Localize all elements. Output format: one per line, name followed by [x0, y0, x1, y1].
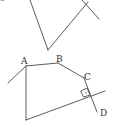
segment-bc — [58, 63, 84, 78]
label-c: C — [84, 72, 91, 82]
top-left-ray — [30, 0, 48, 50]
top-crossing-line — [82, 0, 99, 19]
segment-ab — [26, 63, 58, 66]
bottom-figure: A B C D — [8, 54, 107, 120]
right-angle-dot — [85, 92, 86, 93]
label-b: B — [56, 54, 63, 64]
top-figure — [1, 0, 99, 50]
geometry-diagram: A B C D — [0, 0, 119, 131]
label-a: A — [20, 56, 28, 66]
top-right-ray — [48, 2, 88, 50]
bottom-transversal — [26, 91, 105, 120]
label-d: D — [100, 108, 107, 118]
extension-left-of-a — [8, 66, 26, 83]
